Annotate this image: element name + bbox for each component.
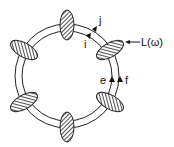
scatterer-lower-right <box>94 88 127 115</box>
label-j: j <box>98 14 101 26</box>
scatterer-upper-right <box>94 36 127 63</box>
inner-ring <box>22 31 112 121</box>
scatterer-top <box>60 10 74 40</box>
scatterers <box>8 10 127 142</box>
label-L-omega: L(ω) <box>141 36 163 48</box>
scatterer-bottom <box>60 112 74 142</box>
scatterer-upper-left <box>8 36 41 63</box>
arrow-e-icon <box>109 76 115 82</box>
ring-diagram: j i e f L(ω) <box>0 0 174 147</box>
scatterer-lower-left <box>8 88 41 115</box>
label-i: i <box>84 38 86 50</box>
arrow-f-icon <box>117 76 123 82</box>
pointer-arrow-icon <box>125 40 130 44</box>
label-e: e <box>100 74 106 86</box>
label-f: f <box>125 74 129 86</box>
